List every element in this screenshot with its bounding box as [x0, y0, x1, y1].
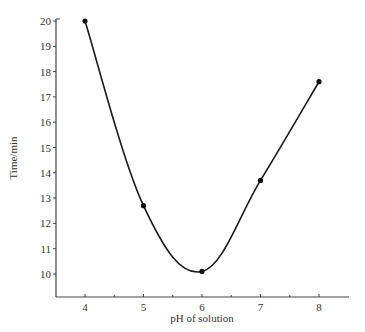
- data-points: [82, 18, 321, 274]
- y-tick-label: 14: [40, 167, 52, 179]
- y-tick-label: 11: [40, 243, 51, 255]
- x-tick-label: 7: [258, 301, 264, 313]
- y-tick-label: 18: [40, 66, 52, 78]
- data-point: [316, 79, 321, 84]
- y-axis-label: Time/min: [7, 136, 19, 179]
- y-tick-label: 13: [40, 192, 52, 204]
- y-tick-label: 17: [40, 91, 52, 103]
- axes: [56, 19, 349, 297]
- y-tick-label: 12: [40, 217, 51, 229]
- data-point: [141, 203, 146, 208]
- x-tick-label: 4: [82, 301, 88, 313]
- data-point: [258, 178, 263, 183]
- data-point: [82, 18, 87, 23]
- data-curve: [85, 21, 319, 272]
- line-chart: 1011121314151617181920 45678 pH of solut…: [0, 0, 365, 332]
- x-tick-label: 5: [141, 301, 147, 313]
- y-tick-label: 16: [40, 116, 52, 128]
- x-axis-label: pH of solution: [170, 312, 234, 324]
- x-tick-label: 8: [316, 301, 322, 313]
- y-tick-label: 20: [40, 15, 52, 27]
- y-tick-label: 10: [40, 268, 52, 280]
- y-tick-label: 15: [40, 142, 52, 154]
- y-tick-label: 19: [40, 40, 52, 52]
- data-point: [199, 269, 204, 274]
- y-axis-ticks: 1011121314151617181920: [40, 15, 56, 280]
